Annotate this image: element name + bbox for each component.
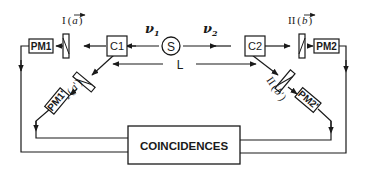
polarizer-i-a-label: I(a)	[62, 14, 83, 27]
svg-text:C2: C2	[248, 40, 262, 52]
bell-experiment-diagram: S ν1 ν2 L C1 C2 I(a) PM1 I(a') PM1'	[0, 0, 367, 174]
polarizer-i-a	[63, 34, 69, 58]
svg-text:C1: C1	[110, 40, 124, 52]
source: S	[162, 37, 180, 55]
polarizer-ii-b	[299, 34, 305, 58]
beam-label-nu2: ν2	[203, 21, 218, 38]
detector-pm1-prime: PM1'	[45, 88, 70, 114]
coincidence-counter: COINCIDENCES	[128, 126, 240, 164]
svg-text:COINCIDENCES: COINCIDENCES	[140, 140, 229, 152]
detector-pm2-prime: PM2'	[295, 88, 321, 113]
polarizer-ii-b-label: II(b)	[288, 14, 313, 27]
svg-text:PM2: PM2	[316, 41, 337, 52]
detector-pm1: PM1	[29, 39, 53, 53]
switch-c2: C2	[245, 36, 265, 56]
svg-text:S: S	[167, 40, 175, 54]
detector-pm2: PM2	[314, 39, 339, 53]
switch-c1: C1	[107, 36, 127, 56]
svg-text:PM1: PM1	[31, 41, 52, 52]
distance-label: L	[177, 58, 184, 72]
beam-label-nu1: ν1	[145, 21, 160, 38]
